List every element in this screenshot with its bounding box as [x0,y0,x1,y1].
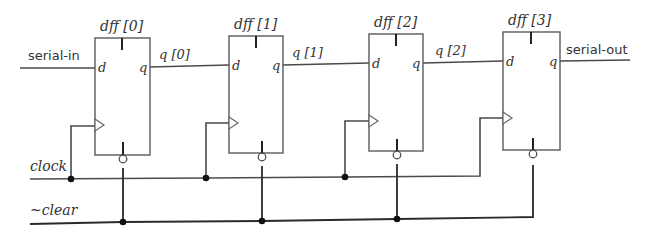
dff-3-clear-bubble-icon [529,150,537,158]
clock-junction-2 [342,174,349,181]
clear-junction-1 [259,218,266,225]
dff-2-clear-bubble-icon [393,151,401,159]
clear-label: ~clear [30,202,79,218]
dff-0-title: dff [0] [100,18,144,34]
serial-in-signal: serial-in [20,48,95,68]
clear-junction-0 [120,219,127,226]
dff-1-q-pin: q [272,58,280,73]
dff-2-d-pin: d [372,56,380,71]
clock-label: clock [30,158,67,174]
serial-out-signal: serial-out [560,42,630,61]
net-q1: q [1] [283,45,369,65]
dff-3-body [503,32,560,150]
serial-out-label: serial-out [566,42,628,57]
dff-3-title: dff [3] [508,12,552,28]
dff-1-body [229,36,283,153]
dff-3: dff [3] d q [503,12,560,158]
clock-junction-0 [68,176,75,183]
dff-0-body [95,38,150,155]
dff-0-q-pin: q [139,60,147,75]
dff-3-d-pin: d [506,54,514,69]
dff-3-q-pin: q [549,54,557,69]
net-q2: q [2] [423,43,503,63]
dff-2: dff [2] d q [369,14,423,159]
dff-2-body [369,34,423,151]
clear-junction-2 [394,216,401,223]
serial-in-label: serial-in [28,48,80,63]
shift-register-diagram: serial-in q [0] q [1] q [2] serial-out c… [0,0,646,240]
dff-1: dff [1] d q [229,16,283,161]
dff-2-title: dff [2] [374,14,418,30]
dff-2-q-pin: q [412,56,420,71]
q0-net-label: q [0] [159,47,191,62]
dff-1-title: dff [1] [234,16,278,32]
dff-0: dff [0] d q [95,18,150,163]
net-q0: q [0] [150,47,229,67]
q1-net-label: q [1] [292,45,324,60]
dff-0-d-pin: d [98,60,106,75]
dff-0-clear-bubble-icon [119,155,127,163]
dff-1-clear-bubble-icon [258,153,266,161]
clear-bus: ~clear [30,164,533,225]
q2-net-label: q [2] [435,43,467,58]
clock-junction-1 [203,175,210,182]
dff-1-d-pin: d [232,58,240,73]
